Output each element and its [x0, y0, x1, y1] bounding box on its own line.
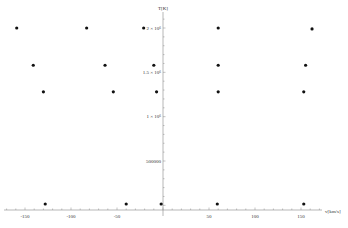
data-point	[112, 90, 115, 93]
data-point	[160, 202, 163, 205]
y-tick-label: 500000	[146, 159, 162, 164]
data-point	[85, 26, 88, 29]
x-axis-label: v[km/s]	[325, 209, 341, 214]
data-point	[152, 64, 155, 67]
data-point	[32, 64, 35, 67]
scatter-plot: -150-100-50501001505000001 × 10⁶1.5 × 10…	[0, 0, 348, 228]
y-tick-label: 2 × 10⁶	[146, 26, 161, 31]
y-tick-label: 1 × 10⁶	[146, 114, 161, 119]
data-point	[302, 90, 305, 93]
data-point	[103, 64, 106, 67]
data-point	[217, 26, 220, 29]
data-point	[304, 64, 307, 67]
data-point	[217, 64, 220, 67]
data-point	[44, 202, 47, 205]
data-point	[302, 202, 305, 205]
data-point	[217, 90, 220, 93]
data-point	[155, 90, 158, 93]
data-point	[310, 27, 313, 30]
data-point	[42, 90, 45, 93]
x-tick-label: -150	[20, 214, 30, 219]
x-tick-label: -50	[114, 214, 121, 219]
data-point	[125, 202, 128, 205]
axes	[4, 12, 322, 216]
data-point	[15, 26, 18, 29]
y-tick-label: 1.5 × 10⁶	[143, 70, 162, 75]
data-point	[142, 26, 145, 29]
x-tick-label: 150	[297, 214, 305, 219]
y-axis-label: T[K]	[158, 6, 168, 11]
data-point	[216, 202, 219, 205]
x-tick-label: -100	[66, 214, 76, 219]
x-tick-label: 50	[207, 214, 213, 219]
x-tick-label: 100	[251, 214, 259, 219]
